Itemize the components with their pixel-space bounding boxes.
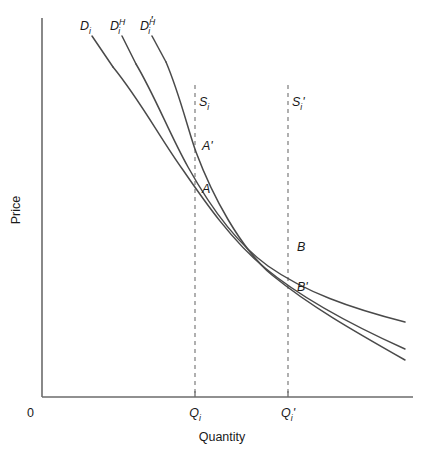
x-axis-title: Quantity [199,430,246,444]
supply-label-si-sub: i [207,102,210,112]
tick-label-qi-prime-base: Q [281,406,291,420]
supply-label-si: Si [199,95,210,112]
point-label-a-prime: A' [201,139,213,153]
supply-label-si-prime: Si' [292,95,305,112]
curve-label-di-base: D [80,19,89,33]
leader-line-di-prime-h [152,36,166,62]
demand-curve-di-h [136,64,405,322]
curve-label-di-prime-h: DHi' [140,14,156,36]
demand-curve-di [113,67,405,349]
point-label-b-prime-mark: ' [305,280,308,294]
demand-curves-group [113,62,405,360]
point-label-b: B [297,240,305,254]
origin-label: 0 [27,406,34,420]
curve-label-leaders [92,36,166,67]
leader-line-di [92,36,113,67]
tick-label-qi: Qi [189,406,202,423]
tick-label-qi-sub: i [199,413,202,423]
point-label-a-base: A [201,182,210,196]
tick-label-qi-prime-mark: ' [293,406,296,420]
leader-line-di-h [122,36,136,64]
curve-label-di-sub: i [89,26,92,36]
chart-svg: Di DHi DHi' Si Si' A' A [0,0,427,453]
point-label-a-prime-mark: ' [210,139,213,153]
demand-supply-chart: Di DHi DHi' Si Si' A' A [0,0,427,453]
curve-label-di-h: DHi [110,17,126,36]
tick-labels-group: Qi Qi' [189,406,295,423]
point-label-a-prime-base: A [201,139,210,153]
point-label-b-prime-base: B [297,280,305,294]
supply-label-si-prime-mark: ' [302,95,305,109]
curve-labels-group: Di DHi DHi' [80,14,156,36]
point-label-a: A [201,182,210,196]
supply-labels-group: Si Si' [199,95,305,112]
point-label-b-prime: B' [297,280,308,294]
tick-label-qi-base: Q [189,406,199,420]
y-axis-title: Price [9,196,23,225]
curve-label-di-h-sub: i [118,26,121,36]
axes-group [42,18,413,397]
curve-label-di: Di [80,19,92,36]
point-label-b-base: B [297,240,305,254]
tick-label-qi-prime: Qi' [281,406,296,423]
